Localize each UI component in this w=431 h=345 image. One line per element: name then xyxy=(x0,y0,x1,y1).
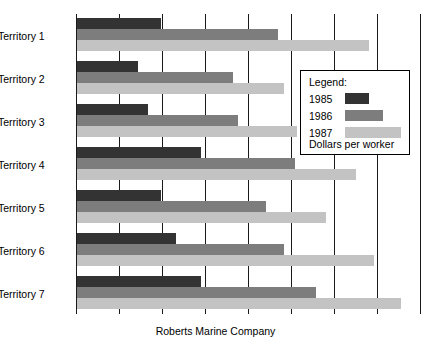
gridline xyxy=(420,14,421,314)
bar-1987-territory-3 xyxy=(77,126,297,137)
bar-1987-territory-1 xyxy=(77,40,369,51)
y-axis-label-territory-2: Territory 2 xyxy=(0,73,68,85)
bar-1985-territory-6 xyxy=(77,233,176,244)
y-axis-label-territory-4: Territory 4 xyxy=(0,159,68,171)
y-axis-label-territory-3: Territory 3 xyxy=(0,116,68,128)
bar-shadow xyxy=(356,173,362,184)
bar-1986-territory-3 xyxy=(77,115,238,126)
bar-1987-territory-5 xyxy=(77,212,326,223)
y-axis-labels: Territory 1 Territory 2 Territory 3 Terr… xyxy=(0,14,76,314)
bar-shadow xyxy=(369,44,375,55)
bar-1985-territory-4 xyxy=(77,147,201,158)
bar-1986-territory-6 xyxy=(77,244,284,255)
bar-1987-territory-6 xyxy=(77,255,374,266)
gridline xyxy=(377,14,378,314)
y-axis-label-territory-5: Territory 5 xyxy=(0,202,68,214)
gridline xyxy=(334,14,335,314)
bar-1986-territory-1 xyxy=(77,29,278,40)
bar-1987-territory-2 xyxy=(77,83,284,94)
bar-1987-territory-4 xyxy=(77,169,356,180)
bar-1986-territory-2 xyxy=(77,72,233,83)
bar-shadow xyxy=(401,302,407,313)
bar-shadow xyxy=(284,87,290,98)
legend-label-1985: 1985 xyxy=(309,93,332,105)
bar-1985-territory-2 xyxy=(77,61,138,72)
y-axis-label-territory-6: Territory 6 xyxy=(0,245,68,257)
legend-swatch-1985 xyxy=(345,93,369,104)
legend-swatch-1987 xyxy=(345,127,401,138)
bar-1985-territory-7 xyxy=(77,276,201,287)
legend-title: Legend: xyxy=(309,76,347,88)
bar-1986-territory-5 xyxy=(77,201,266,212)
bar-1987-territory-7 xyxy=(77,298,401,309)
plot-area xyxy=(76,14,421,314)
legend-footer-label: Dollars per worker xyxy=(309,138,394,150)
legend: Legend: 1985 1986 1987 Dollars per worke… xyxy=(300,70,410,155)
legend-swatch-1986 xyxy=(345,110,383,121)
bar-1986-territory-4 xyxy=(77,158,295,169)
bar-chart: Territory 1 Territory 2 Territory 3 Terr… xyxy=(0,0,431,345)
bar-1986-territory-7 xyxy=(77,287,316,298)
chart-caption: Roberts Marine Company xyxy=(0,325,431,337)
bar-shadow xyxy=(326,216,332,227)
y-axis-label-territory-7: Territory 7 xyxy=(0,288,68,300)
y-axis-label-territory-1: Territory 1 xyxy=(0,30,68,42)
bar-1985-territory-5 xyxy=(77,190,161,201)
y-axis-line xyxy=(76,14,77,314)
bar-1985-territory-3 xyxy=(77,104,148,115)
bar-1985-territory-1 xyxy=(77,18,161,29)
legend-label-1986: 1986 xyxy=(309,110,332,122)
